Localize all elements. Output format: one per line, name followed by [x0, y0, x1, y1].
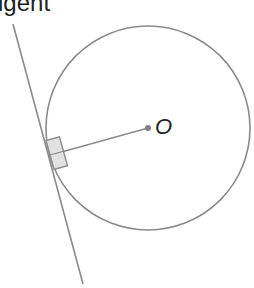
center-label: O [155, 114, 172, 140]
tangent-line [13, 24, 83, 284]
tangent-circle-diagram [0, 0, 254, 288]
right-angle-marker [46, 137, 68, 170]
center-point [145, 125, 151, 131]
radius-segment [58, 128, 148, 153]
